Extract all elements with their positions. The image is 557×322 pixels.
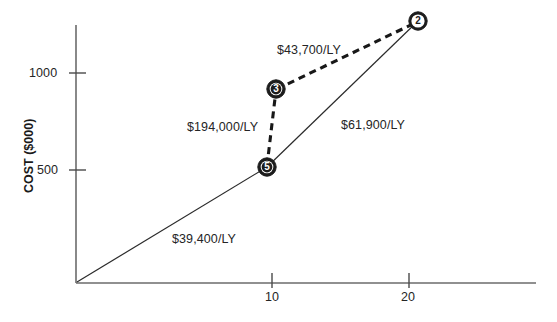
- marker-node-3-core: [271, 84, 282, 95]
- y-tick-label-500: 500: [37, 163, 58, 177]
- annotation-cost-incremental-upper: $43,700/LY: [277, 43, 341, 57]
- marker-node-2-inner: [411, 14, 424, 27]
- y-tick-label-1000: 1000: [29, 66, 57, 80]
- segment-origin-to-5: [77, 167, 267, 282]
- y-axis-title: COST ($000): [22, 119, 36, 193]
- cost-effectiveness-chart: 5 3 2 1000 500 10 20 COST ($000) $39,400…: [0, 0, 557, 322]
- x-tick-label-10: 10: [265, 290, 279, 304]
- annotation-cost-incremental-vertical: $194,000/LY: [187, 120, 258, 134]
- annotation-cost-ray-upper: $61,900/LY: [341, 118, 405, 132]
- marker-node-5-core: [262, 162, 273, 173]
- annotation-cost-ray-lower: $39,400/LY: [172, 232, 236, 246]
- segment-5-to-3-dashed: [267, 90, 276, 166]
- x-tick-label-20: 20: [401, 290, 415, 304]
